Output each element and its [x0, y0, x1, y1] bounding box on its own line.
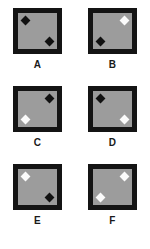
panel-f-box — [88, 164, 137, 210]
panel-a-label: A — [34, 59, 42, 70]
panel-e-box — [13, 164, 62, 210]
diamond-icon — [45, 37, 55, 47]
panel-b-label: B — [109, 59, 117, 70]
panel-d-box — [88, 86, 137, 132]
figure-root: A B C — [0, 0, 150, 249]
diamond-icon — [120, 172, 130, 182]
panel-b: B — [75, 8, 150, 86]
panel-f: F — [75, 164, 150, 242]
panel-f-interior — [93, 169, 132, 205]
panel-f-label: F — [109, 215, 115, 226]
diamond-icon — [21, 115, 31, 125]
panel-c-box — [13, 86, 62, 132]
diamond-icon — [96, 94, 106, 104]
panel-a: A — [0, 8, 75, 86]
diamond-icon — [45, 94, 55, 104]
panel-e-label: E — [34, 215, 41, 226]
diamond-icon — [120, 115, 130, 125]
panel-d-interior — [93, 91, 132, 127]
panel-b-interior — [93, 13, 132, 49]
panel-d: D — [75, 86, 150, 164]
diamond-icon — [21, 172, 31, 182]
panel-c-label: C — [34, 137, 42, 148]
diamond-icon — [45, 193, 55, 203]
panel-d-label: D — [109, 137, 117, 148]
panel-a-interior — [18, 13, 57, 49]
panel-b-box — [88, 8, 137, 54]
panel-e-interior — [18, 169, 57, 205]
panel-c: C — [0, 86, 75, 164]
diamond-icon — [96, 37, 106, 47]
panel-c-interior — [18, 91, 57, 127]
panel-e: E — [0, 164, 75, 242]
panel-a-box — [13, 8, 62, 54]
diamond-icon — [96, 193, 106, 203]
diamond-icon — [120, 16, 130, 26]
diamond-icon — [21, 16, 31, 26]
panel-grid: A B C — [0, 8, 150, 242]
